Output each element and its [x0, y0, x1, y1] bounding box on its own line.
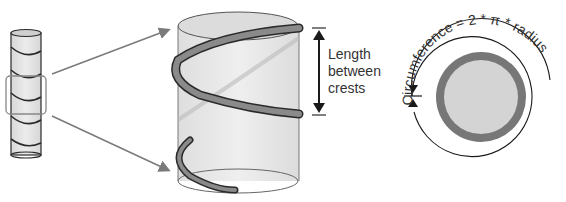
magnified-cylinder [176, 12, 299, 193]
zoom-arrow-top [52, 30, 168, 74]
zoom-arrow-bottom [52, 116, 168, 170]
core-disk [444, 60, 518, 134]
small-coiled-cylinder [6, 30, 46, 159]
arrow-up-icon [313, 30, 325, 40]
length-label-1: Length [328, 46, 371, 62]
length-label-3: crests [328, 80, 365, 96]
arrow-down-icon [313, 103, 325, 113]
cross-section: Circumference = 2 * π * radius [399, 11, 554, 157]
length-dimension: Length between crests [312, 28, 381, 115]
coil-diagram: Length between crests Circumference = 2 … [0, 0, 566, 202]
length-label-2: between [328, 63, 381, 79]
